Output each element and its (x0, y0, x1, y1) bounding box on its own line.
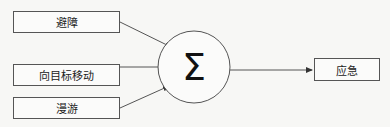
output-box-emergency: 应急 (314, 58, 380, 81)
arrow-input-1 (120, 22, 171, 47)
input-box-wander: 漫游 (13, 97, 120, 119)
input-box-avoid-obstacle: 避障 (13, 11, 120, 33)
input-box-move-to-goal: 向目标移动 (13, 64, 120, 86)
sigma-symbol: Σ (174, 42, 214, 92)
arrow-input-3 (120, 86, 169, 108)
